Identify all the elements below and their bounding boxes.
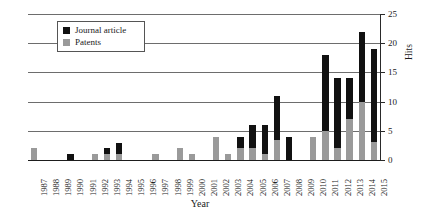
bar-column [274,96,280,160]
bar-segment-journal-article [116,143,122,155]
gray-square-icon [63,39,70,46]
black-square-icon [63,27,70,34]
bar-column [346,78,352,160]
bar-segment-journal-article [237,137,243,149]
bar-column [286,137,292,160]
x-axis-tick-label: 1999 [186,179,195,196]
legend-item-label: Patents [75,38,101,47]
bar-segment-patents [225,154,231,160]
bar-segment-journal-article [286,137,292,160]
x-axis-tick-label: 2008 [295,179,304,196]
y-axis-tick-label: 25 [388,10,397,19]
bar-segment-journal-article [262,125,268,154]
bar-column [92,154,98,160]
legend-item-patents: Patents [63,38,140,47]
bar-segment-patents [92,154,98,160]
bar-column [67,154,73,160]
bar-segment-patents [213,137,219,160]
bar-segment-patents [359,102,365,160]
bar-segment-journal-article [346,78,352,119]
bar-column [116,142,122,160]
bar-segment-patents [262,154,268,160]
y-axis-tick [380,131,385,132]
x-axis-tick-labels: 1987198819891990199119921993199419951996… [28,162,380,198]
bar-segment-patents [177,148,183,160]
x-axis-tick-label: 2012 [344,179,353,196]
x-axis-tick-label: 2015 [380,179,389,196]
bar-column [189,154,195,160]
y-axis-tick-label: 10 [388,98,397,107]
x-axis-tick-label: 2006 [271,179,280,196]
x-axis-tick-label: 2014 [368,179,377,196]
bar-segment-patents [152,154,158,160]
bar-column [152,154,158,160]
bar-column [371,49,377,160]
bar-segment-journal-article [334,78,340,148]
bar-column [322,55,328,160]
y-axis-tick [380,14,385,15]
bar-segment-patents [116,154,122,160]
bar-column [225,154,231,160]
x-axis-title: Year [0,198,400,209]
bar-column [310,137,316,160]
y-axis-tick-label: 5 [388,127,393,136]
y-axis-tick-label: 20 [388,39,397,48]
y-axis-line [380,14,381,160]
bar-segment-journal-article [322,55,328,131]
x-axis-tick-label: 2011 [331,179,340,196]
bar-chart: 0510152025 Hits 198719881989199019911992… [0,0,437,218]
bar-segment-patents [189,154,195,160]
x-axis-tick-label: 2007 [283,179,292,196]
bar-column [237,137,243,160]
y-axis-tick-label: 0 [388,156,393,165]
bar-segment-patents [104,154,110,160]
bar-segment-patents [346,119,352,160]
x-axis-tick-label: 2002 [222,179,231,196]
legend: Journal article Patents [57,21,145,52]
x-axis-tick-label: 1992 [101,179,110,196]
x-axis-tick-label: 1997 [161,179,170,196]
bar-segment-patents [274,140,280,160]
x-axis-tick-label: 2001 [210,179,219,196]
x-axis-tick-label: 2000 [198,179,207,196]
x-axis-tick-label: 2009 [307,179,316,196]
bar-column [104,148,110,160]
x-axis-tick-label: 1988 [52,179,61,196]
bar-column [334,78,340,160]
x-axis-tick-label: 1993 [113,179,122,196]
bar-segment-patents [249,148,255,160]
x-axis-tick-label: 1991 [89,179,98,196]
bar-column [177,148,183,160]
x-axis-tick-label: 1990 [76,179,85,196]
x-axis-tick-label: 2005 [259,179,268,196]
bar-segment-patents [322,131,328,160]
x-axis-tick-label: 2010 [319,179,328,196]
x-axis-tick-label: 2013 [356,179,365,196]
y-axis-title: Hits [404,44,414,60]
bar-segment-journal-article [67,154,73,160]
x-axis-tick-label: 1994 [125,179,134,196]
legend-item-journal-article: Journal article [63,26,140,35]
x-axis-tick-label: 2003 [234,179,243,196]
x-axis-tick-label: 1996 [149,179,158,196]
bar-segment-journal-article [274,96,280,140]
y-axis-tick [380,72,385,73]
x-axis-tick-label: 1995 [137,179,146,196]
bar-segment-journal-article [249,125,255,148]
bar-segment-patents [237,148,243,160]
bar-segment-patents [31,148,37,160]
bar-column [249,125,255,160]
x-axis-tick-label: 2004 [246,179,255,196]
y-axis-tick [380,102,385,103]
bar-segment-patents [334,148,340,160]
x-axis-tick-label: 1989 [64,179,73,196]
bar-segment-patents [310,137,316,160]
bar-column [262,125,268,160]
bar-segment-patents [371,142,377,160]
axis-baseline [28,160,380,161]
bar-column [31,148,37,160]
x-axis-tick-label: 1987 [40,179,49,196]
y-axis-tick-label: 15 [388,68,397,77]
y-axis-tick [380,160,385,161]
bar-segment-journal-article [371,49,377,142]
